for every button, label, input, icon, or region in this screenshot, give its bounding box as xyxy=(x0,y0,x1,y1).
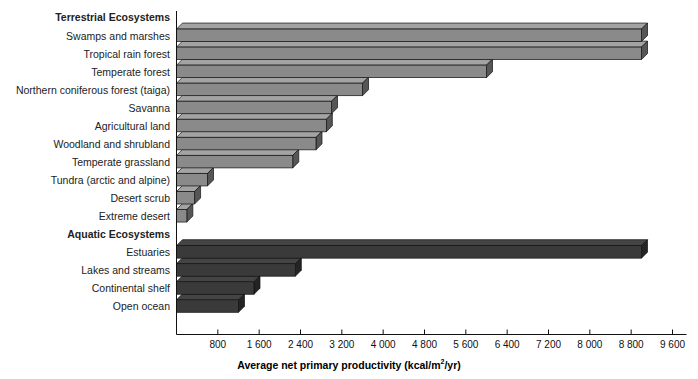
bar-northern-coniferous-forest-taiga xyxy=(177,77,369,96)
group-heading: Aquatic Ecosystems xyxy=(67,229,170,240)
bar-extreme-desert xyxy=(177,204,193,223)
category-label: Lakes and streams xyxy=(81,265,170,276)
bar-temperate-grassland xyxy=(177,149,299,168)
group-heading: Terrestrial Ecosystems xyxy=(55,12,170,23)
x-tick-label: 9 600 xyxy=(643,339,698,350)
bar-savanna xyxy=(177,95,338,114)
bar-estuaries xyxy=(177,240,648,259)
x-axis-title-tail: /yr) xyxy=(444,359,460,371)
x-axis-title: Average net primary productivity (kcal/m… xyxy=(0,358,698,371)
category-label: Temperate grassland xyxy=(72,157,170,168)
bar-tundra-arctic-and-alpine xyxy=(177,167,214,186)
category-label: Agricultural land xyxy=(95,121,170,132)
bar-temperate-forest xyxy=(177,59,493,78)
bar-desert-scrub xyxy=(177,186,201,205)
category-label: Tundra (arctic and alpine) xyxy=(51,175,170,186)
primary-productivity-bar-chart: 8001 6002 4003 2004 0004 8005 6006 4007 … xyxy=(0,0,698,379)
category-label: Continental shelf xyxy=(92,283,170,294)
bar-open-ocean xyxy=(177,294,245,313)
category-label: Open ocean xyxy=(113,301,170,312)
category-label: Tropical rain forest xyxy=(83,49,170,60)
bar-lakes-and-streams xyxy=(177,258,302,277)
bar-agricultural-land xyxy=(177,113,333,132)
bar-continental-shelf xyxy=(177,276,261,295)
category-label: Temperate forest xyxy=(91,67,170,78)
category-label: Extreme desert xyxy=(99,211,170,222)
category-label: Northern coniferous forest (taiga) xyxy=(16,85,170,96)
category-label: Woodland and shrubland xyxy=(53,139,170,150)
category-label: Estuaries xyxy=(126,247,170,258)
x-axis-title-main: Average net primary productivity (kcal/m xyxy=(237,359,440,371)
category-label: Savanna xyxy=(129,103,170,114)
category-label: Desert scrub xyxy=(110,193,170,204)
bar-swamps-and-marshes xyxy=(177,23,648,42)
category-label: Swamps and marshes xyxy=(66,31,170,42)
bar-woodland-and-shrubland xyxy=(177,131,323,150)
bar-tropical-rain-forest xyxy=(177,41,648,60)
